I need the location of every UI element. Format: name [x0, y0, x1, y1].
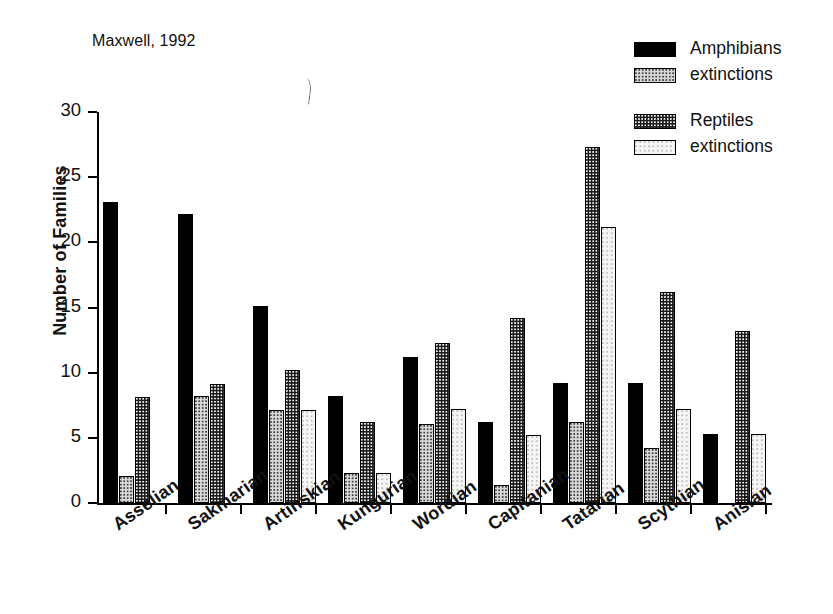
bar-tatarian-light [569, 422, 584, 503]
source-caption: Maxwell, 1992 [92, 32, 196, 50]
x-group-tick-1 [240, 505, 242, 514]
bar-capitanian-dark [510, 318, 525, 503]
bar-asselian-light [119, 476, 134, 503]
scan-artifact-mark [298, 77, 313, 104]
bar-scythian-dark [660, 292, 675, 503]
y-tick-label: 20 [60, 229, 81, 251]
bar-capitanian-light [494, 485, 509, 503]
x-group-tick-4 [465, 505, 467, 514]
legend-item-extinctions-01[interactable]: extinctions [634, 62, 833, 88]
legend-swatch-light-icon [634, 68, 676, 83]
bar-sakmarian-solid [178, 214, 193, 503]
y-tick-label: 25 [60, 164, 81, 186]
bar-anisian-dark [735, 331, 750, 503]
bar-kungurian-light [344, 473, 359, 503]
y-tick-10: 10 [88, 372, 97, 374]
bar-wordian-dark [435, 343, 450, 503]
bar-scythian-solid [628, 383, 643, 503]
plot-area: 051015202530 [97, 112, 772, 505]
x-group-tick-5 [540, 505, 542, 514]
x-group-tick-6 [615, 505, 617, 514]
bar-scythian-light [644, 448, 659, 503]
bar-tatarian-white [601, 227, 616, 503]
bar-sakmarian-light [194, 396, 209, 503]
y-tick-label: 5 [71, 425, 81, 447]
y-tick-label: 30 [60, 99, 81, 121]
legend-label: extinctions [690, 66, 773, 84]
y-tick-20: 20 [88, 241, 97, 243]
y-tick-label: 10 [60, 360, 81, 382]
bar-artinskian-dark [285, 370, 300, 503]
x-group-tick-3 [390, 505, 392, 514]
y-tick-30: 30 [88, 111, 97, 113]
bar-tatarian-dark [585, 147, 600, 503]
bar-asselian-solid [103, 202, 118, 503]
x-group-tick-8 [765, 505, 767, 514]
x-group-tick-2 [315, 505, 317, 514]
y-tick-label: 15 [60, 295, 81, 317]
legend-item-amphibians-00[interactable]: Amphibians [634, 36, 833, 62]
x-group-tick-0 [165, 505, 167, 514]
y-tick-15: 15 [88, 307, 97, 309]
y-tick-label: 0 [71, 490, 81, 512]
y-tick-0: 0 [88, 502, 97, 504]
y-axis-line [97, 112, 99, 505]
y-tick-5: 5 [88, 437, 97, 439]
bar-chart-figure: Maxwell, 1992 AmphibiansextinctionsRepti… [0, 0, 833, 614]
y-tick-25: 25 [88, 176, 97, 178]
bar-artinskian-light [269, 410, 284, 503]
bar-asselian-dark [135, 397, 150, 503]
bar-sakmarian-dark [210, 384, 225, 503]
bar-wordian-light [419, 424, 434, 504]
legend-label: Amphibians [690, 40, 781, 58]
legend-swatch-solid-icon [634, 42, 676, 57]
x-group-tick-7 [690, 505, 692, 514]
legend-group-0: Amphibiansextinctions [634, 36, 833, 88]
bar-capitanian-solid [478, 422, 493, 503]
